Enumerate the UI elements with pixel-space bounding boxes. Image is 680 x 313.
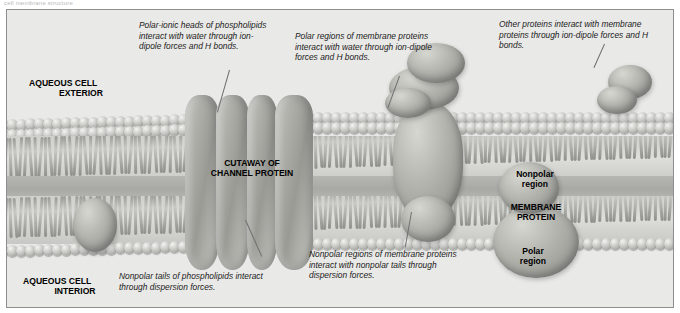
label-aqueous-interior: AQUEOUS CELL INTERIOR xyxy=(23,276,127,297)
phospholipid-tail xyxy=(117,196,123,235)
phospholipid-tail xyxy=(44,197,47,237)
phospholipid-tail xyxy=(162,196,168,234)
label-aqueous-interior-line2: INTERIOR xyxy=(23,286,127,296)
phospholipid-tail xyxy=(667,136,673,158)
phospholipid-tail xyxy=(117,136,123,174)
phospholipid-tail xyxy=(487,196,493,225)
phospholipid-tail xyxy=(169,136,173,173)
phospholipid-tail xyxy=(37,137,43,177)
phospholipid-tail xyxy=(134,136,137,174)
phospholipid-tail xyxy=(619,196,623,222)
phospholipid-tail xyxy=(493,196,498,225)
phospholipid-tail xyxy=(487,136,493,163)
channel-lobe xyxy=(185,95,219,270)
phospholipid-tail xyxy=(72,136,78,176)
phospholipid-tail xyxy=(602,136,608,160)
phospholipid-tail xyxy=(474,136,478,164)
phospholipid-tail xyxy=(127,196,133,235)
label-cutaway-line1: CUTAWAY OF xyxy=(193,158,311,168)
label-cutaway-channel-protein: CUTAWAY OF CHANNEL PROTEIN xyxy=(193,158,311,179)
phospholipid-tail xyxy=(172,196,178,234)
label-membrane-protein-line2: PROTEIN xyxy=(499,212,573,222)
phospholipid-tail xyxy=(577,136,583,161)
phospholipid-tail xyxy=(82,136,88,176)
label-nonpolar-region: Nonpolar region xyxy=(505,169,565,190)
phospholipid-tail xyxy=(529,136,533,162)
phospholipid-tail xyxy=(548,136,554,162)
phospholipid-tail xyxy=(368,196,373,228)
caption-nonpolar-tails: Nonpolar tails of phospholipids interact… xyxy=(119,271,279,292)
figure-stage: cell membrane structure xyxy=(0,0,680,313)
phospholipid-tail xyxy=(583,136,588,161)
channel-lobe xyxy=(247,95,277,270)
phospholipid-tail xyxy=(37,197,43,237)
phospholipid-head xyxy=(673,112,674,124)
phospholipid-tail xyxy=(172,136,178,173)
phospholipid-tail xyxy=(633,136,639,159)
label-cutaway-line2: CHANNEL PROTEIN xyxy=(193,168,311,178)
phospholipid-tail xyxy=(458,196,463,226)
phospholipid-tail xyxy=(612,136,618,160)
phospholipid-tail xyxy=(44,137,47,177)
phospholipid-tail xyxy=(383,136,387,166)
phospholipid-tail xyxy=(654,196,657,221)
phospholipid-tail xyxy=(564,136,568,161)
channel-lobe xyxy=(275,95,313,270)
phospholipid-tail xyxy=(667,196,673,221)
phospholipid-tail xyxy=(602,196,608,222)
channel-lobe xyxy=(216,95,249,270)
phospholipid-tail xyxy=(619,136,623,159)
phospholipid-tail xyxy=(89,136,92,175)
phospholipid-tail xyxy=(349,196,352,229)
other-protein-lower[interactable] xyxy=(597,86,637,114)
phospholipid-tail xyxy=(383,196,387,228)
membrane-diagram: Polar-ionic heads of phospholipids inter… xyxy=(6,9,674,308)
caption-other-proteins: Other proteins interact with membrane pr… xyxy=(499,19,659,51)
phospholipid-tail xyxy=(394,196,397,228)
interior-protein[interactable] xyxy=(73,198,117,252)
label-aqueous-exterior: AQUEOUS CELL EXTERIOR xyxy=(29,78,133,99)
phospholipid-tail xyxy=(508,136,513,163)
phospholipid-tail xyxy=(134,196,137,235)
phospholipid-tail xyxy=(328,136,333,168)
phospholipid-tail xyxy=(638,136,644,159)
label-polar-region-line1: Polar xyxy=(507,246,559,256)
phospholipid-tail xyxy=(127,136,133,174)
phospholipid-tail xyxy=(368,136,373,167)
phospholipid-tail xyxy=(647,136,653,159)
phospholipid-tail xyxy=(598,136,603,160)
phospholipid-tail xyxy=(633,196,639,222)
cropped-header-text: cell membrane structure xyxy=(4,0,174,6)
label-polar-region-line2: region xyxy=(507,256,559,266)
phospholipid-tail xyxy=(612,196,618,222)
label-nonpolar-region-line2: region xyxy=(505,179,565,189)
phospholipid-tail xyxy=(342,196,348,229)
phospholipid-tail xyxy=(474,196,478,226)
phospholipid-tail xyxy=(673,136,674,158)
phospholipid-tail xyxy=(362,196,368,229)
phospholipid-tail xyxy=(362,136,368,167)
phospholipid-tail xyxy=(387,196,393,228)
phospholipid-tail xyxy=(342,136,348,168)
channel-protein[interactable] xyxy=(185,95,315,270)
label-aqueous-interior-line1: AQUEOUS CELL xyxy=(23,276,127,286)
phospholipid-tail xyxy=(153,136,159,173)
phospholipid-tail xyxy=(349,136,352,168)
label-nonpolar-region-line1: Nonpolar xyxy=(505,169,565,179)
phospholipid-tail xyxy=(557,136,563,161)
phospholipid-tail xyxy=(477,196,483,226)
phospholipid-tail xyxy=(647,196,653,221)
label-aqueous-exterior-line1: AQUEOUS CELL xyxy=(29,78,133,88)
label-polar-region: Polar region xyxy=(507,246,559,267)
phospholipid-tail xyxy=(598,196,603,222)
phospholipid-tail xyxy=(27,197,33,237)
phospholipid-head xyxy=(673,238,674,250)
phospholipid-tail xyxy=(638,196,644,221)
phospholipid-tail xyxy=(477,136,483,164)
phospholipid-tail xyxy=(654,136,657,158)
phospholipid-tail xyxy=(333,196,339,229)
label-membrane-protein-line1: MEMBRANE xyxy=(499,202,573,212)
phospholipid-tail xyxy=(328,196,333,229)
caption-polar-regions-proteins: Polar regions of membrane proteins inter… xyxy=(295,31,441,63)
phospholipid-head xyxy=(673,122,674,134)
